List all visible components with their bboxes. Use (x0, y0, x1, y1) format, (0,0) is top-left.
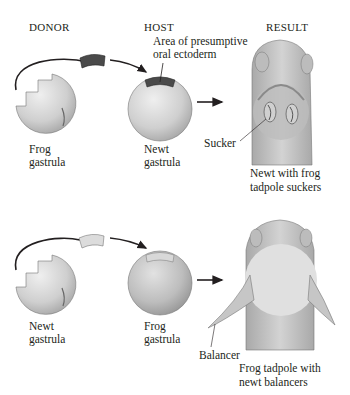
top-graft-piece (80, 54, 105, 68)
header-host: HOST (144, 21, 174, 33)
bottom-result-tadpole (208, 220, 335, 350)
top-donor-gastrula (16, 65, 104, 141)
bottom-graft-piece (79, 234, 104, 248)
top-host-label-2: gastrula (144, 156, 180, 169)
top-result-label-2: tadpole suckers (250, 181, 321, 194)
header-result: RESULT (266, 21, 308, 33)
header-donor: DONOR (29, 21, 70, 33)
bottom-host-gastrula (128, 251, 192, 315)
bottom-result-label-1: Frog tadpole with (239, 362, 321, 375)
sucker-right (286, 104, 298, 124)
top-area-label-2: oral ectoderm (153, 48, 217, 61)
top-donor-label-2: gastrula (29, 156, 65, 169)
bottom-balancer-label: Balancer (199, 349, 240, 362)
top-sucker-label: Sucker (204, 137, 236, 150)
top-host-gastrula (128, 63, 192, 141)
bottom-host-label-2: gastrula (144, 333, 180, 346)
top-host-label-1: Newt (144, 143, 169, 156)
bottom-donor-label-2: gastrula (29, 333, 65, 346)
bottom-graft-arrow (110, 238, 146, 248)
top-result-newt (240, 40, 313, 165)
top-donor-label-1: Frog (29, 143, 51, 156)
bottom-donor-label-1: Newt (29, 320, 54, 333)
bottom-donor-gastrula (16, 255, 76, 314)
top-graft-arrow (110, 60, 146, 72)
bottom-host-label-1: Frog (144, 320, 166, 333)
top-area-label-1: Area of presumptive (153, 35, 248, 48)
bottom-result-label-2: newt balancers (239, 376, 308, 389)
top-result-label-1: Newt with frog (250, 167, 320, 180)
